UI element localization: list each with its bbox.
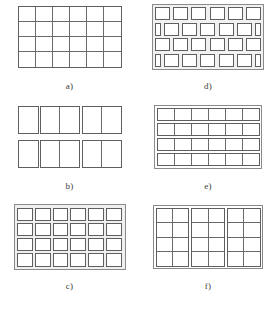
tile (17, 223, 33, 236)
grid-cell (70, 7, 87, 22)
grid-cell (87, 7, 104, 22)
column-separated-grid-diagram (153, 205, 263, 269)
grid-cell (70, 37, 87, 52)
grid-cell (175, 124, 192, 135)
panel-e-artwork (139, 100, 277, 174)
tile (173, 38, 188, 51)
tile (164, 23, 179, 36)
cell-row (228, 238, 260, 253)
cell-band (157, 153, 260, 166)
panel-f-artwork (139, 200, 277, 274)
grid-cell (175, 154, 192, 165)
grid-cell (53, 7, 70, 22)
tile (35, 238, 51, 251)
grid-cell (104, 7, 121, 22)
tile (88, 238, 104, 251)
tile (210, 38, 225, 51)
cell-row (192, 209, 224, 224)
tile-row (155, 54, 261, 67)
cell-band (157, 108, 260, 121)
tile (210, 7, 225, 20)
tile-row (155, 38, 261, 51)
cell-row (18, 140, 122, 168)
cell-group (18, 140, 39, 168)
tile (182, 23, 197, 36)
panel-b-artwork (0, 100, 139, 174)
grid-cell (173, 238, 188, 252)
tile (17, 208, 33, 221)
tile (164, 54, 179, 67)
grid-cell (192, 109, 209, 120)
tile (88, 253, 104, 266)
cell-group (40, 140, 80, 168)
grid-cell (36, 7, 53, 22)
grid-cell (243, 124, 259, 135)
grid-cell (209, 124, 226, 135)
grid-cell (243, 139, 259, 150)
grid-cell (53, 37, 70, 52)
tile (88, 223, 104, 236)
grid-cell (209, 154, 226, 165)
cell-row (18, 106, 122, 134)
tile (35, 223, 51, 236)
figure-panel-grid: a) d) b) e) c) f) (0, 0, 277, 309)
grid-cell (209, 109, 226, 120)
cell-row (228, 209, 260, 224)
tile (191, 7, 206, 20)
panel-e-label: e) (204, 180, 211, 192)
grid-cell (209, 223, 224, 237)
tile (246, 7, 261, 20)
tile (182, 54, 197, 67)
tile (70, 223, 86, 236)
grid-cell (87, 22, 104, 37)
grid-cell (243, 154, 259, 165)
tile (219, 54, 234, 67)
tile (70, 208, 86, 221)
tile-half (155, 54, 161, 67)
tile (200, 54, 215, 67)
grid-cell (87, 37, 104, 52)
tile (17, 238, 33, 251)
row-separated-grid-diagram (154, 105, 262, 169)
cell-band (157, 123, 260, 136)
grid-cell (192, 223, 208, 237)
tile-half (255, 23, 261, 36)
grid-cell (70, 52, 87, 67)
grid-cell (192, 252, 208, 266)
cell-row (192, 223, 224, 238)
grid-cell (19, 22, 36, 37)
tile (106, 253, 122, 266)
grid-cell (209, 209, 224, 223)
tile (237, 23, 252, 36)
tile (228, 7, 243, 20)
grid-cell (228, 238, 244, 252)
grid-cell (83, 141, 102, 167)
cell-row (157, 252, 189, 266)
grid-cell (19, 37, 36, 52)
panel-b: b) (0, 100, 139, 200)
panel-f-label: f) (205, 280, 211, 292)
tile (17, 253, 33, 266)
tile (53, 223, 69, 236)
grid-cell (173, 223, 188, 237)
grid-cell (243, 109, 259, 120)
cell-group (40, 106, 80, 134)
tile (228, 38, 243, 51)
tile (53, 208, 69, 221)
tile (106, 238, 122, 251)
tile (106, 223, 122, 236)
tile (246, 38, 261, 51)
grid-cell (173, 209, 188, 223)
grid-cell (157, 252, 173, 266)
grid-cell (175, 109, 192, 120)
tile-half (255, 54, 261, 67)
tile (155, 7, 170, 20)
cell-row (157, 238, 189, 253)
grid-cell (19, 141, 38, 167)
panel-c-label: c) (66, 280, 73, 292)
cell-group (227, 208, 261, 267)
grid-cell (192, 139, 209, 150)
grid-cell (175, 139, 192, 150)
grid-cell (102, 141, 121, 167)
grid-cell (192, 209, 208, 223)
